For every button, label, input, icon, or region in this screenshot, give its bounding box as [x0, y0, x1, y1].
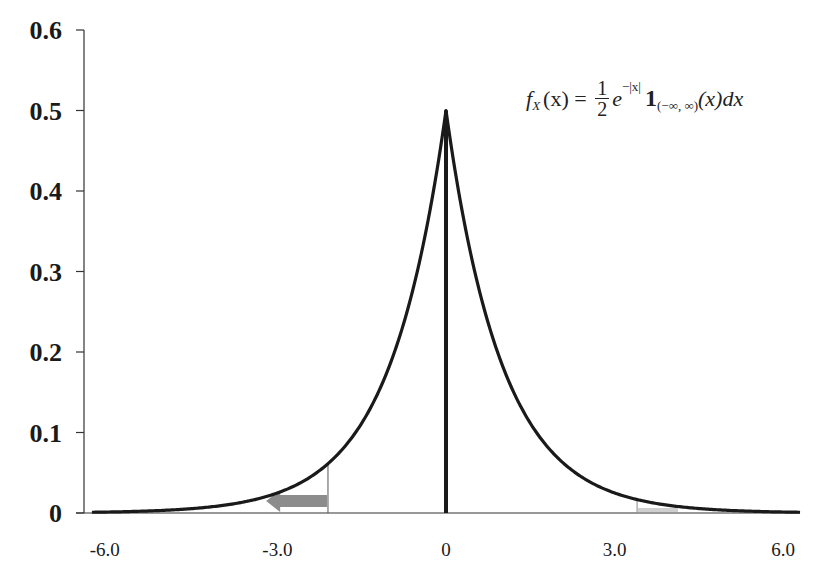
y-tick-label: 0.6: [30, 16, 63, 45]
formula-denominator: 2: [597, 99, 607, 119]
y-tick-label: 0.3: [30, 258, 63, 287]
formula-equals: =: [569, 86, 592, 112]
y-axis: 00.10.20.30.40.50.6: [30, 16, 85, 528]
y-tick-label: 0.5: [30, 97, 63, 126]
x-axis: -6.0-3.003.06.0: [76, 513, 800, 560]
formula-tail: (x)dx: [698, 86, 743, 112]
formula-e: e: [612, 86, 622, 112]
x-tick-label: -3.0: [262, 539, 292, 560]
x-tick-label: 3.0: [603, 539, 627, 560]
formula-fraction: 1 2: [595, 78, 609, 119]
formula-indicator-subscript: (−∞, ∞): [657, 98, 698, 114]
tail-annotations: [266, 464, 678, 513]
x-tick-label: 6.0: [771, 539, 795, 560]
formula-arg: (x): [543, 86, 569, 112]
y-tick-label: 0.4: [30, 177, 63, 206]
y-tick-label: 0.1: [30, 419, 63, 448]
formula-exponent: −|x|: [622, 79, 641, 95]
density-curve: [92, 111, 800, 514]
density-formula: f X (x) = 1 2 e −|x| 1 (−∞, ∞) (x)dx: [526, 78, 743, 119]
y-tick-label: 0.2: [30, 338, 63, 367]
y-tick-label: 0: [49, 499, 62, 528]
formula-indicator: 1: [645, 85, 657, 112]
x-tick-label: -6.0: [90, 539, 120, 560]
x-tick-label: 0: [441, 539, 451, 560]
formula-numerator: 1: [595, 78, 609, 99]
right-tail-fill: [638, 508, 678, 512]
formula-subscript: X: [532, 98, 540, 114]
